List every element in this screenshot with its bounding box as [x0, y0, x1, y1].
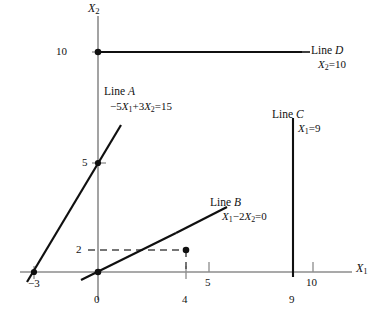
- line-c-equation: X1=9: [298, 122, 320, 137]
- point-0-5: [95, 160, 101, 166]
- line-b-label: Line B: [210, 196, 241, 209]
- y-tick-label-10: 10: [56, 45, 67, 57]
- line-c-label: Line C: [272, 108, 304, 121]
- point-0-0: [95, 269, 102, 276]
- line-b-stroke-upper: [176, 207, 227, 233]
- x-axis-ticks: [34, 262, 313, 279]
- y-tick-label-5: 5: [82, 156, 88, 168]
- point-neg3-0: [31, 269, 37, 275]
- x-tick-label-4: 4: [182, 293, 188, 305]
- point-4-2: [183, 247, 190, 254]
- y-axis-label: X2: [88, 2, 100, 17]
- x-tick-label-10: 10: [306, 276, 317, 288]
- line-a-stroke: [27, 125, 121, 282]
- axes-group: [20, 16, 352, 300]
- x-axis-label: X1: [356, 262, 368, 277]
- x-tick-label-5: 5: [205, 276, 211, 288]
- x-tick-label-neg3: −3: [28, 277, 40, 289]
- y-tick-label-2: 2: [76, 243, 82, 255]
- line-a-equation: −5X1+3X2=15: [110, 100, 172, 115]
- line-b-equation: X1−2X2=0: [222, 210, 267, 225]
- graph-figure: X2 X1 10 5 2 5 10 −3 0 4 9 Line D X2=10 …: [0, 0, 376, 318]
- x-tick-label-9: 9: [289, 293, 295, 305]
- line-a-label: Line A: [104, 85, 135, 98]
- x-tick-label-0: 0: [94, 293, 100, 305]
- marker-points: [31, 49, 189, 276]
- line-d-label: Line D: [311, 44, 343, 57]
- point-0-10: [95, 49, 102, 56]
- y-axis-ticks: [92, 52, 106, 163]
- line-d-equation: X2=10: [318, 58, 346, 73]
